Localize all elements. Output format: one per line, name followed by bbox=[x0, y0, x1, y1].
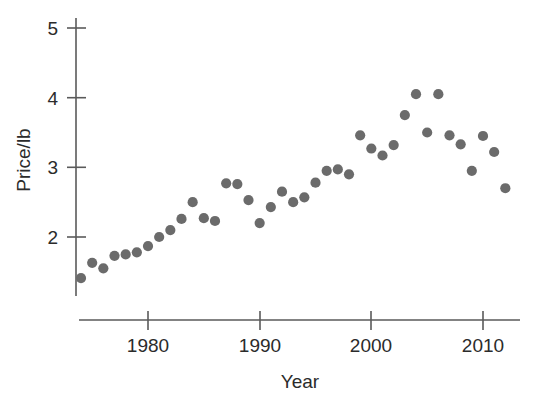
data-point bbox=[467, 166, 477, 176]
data-point bbox=[310, 178, 320, 188]
data-point bbox=[433, 89, 443, 99]
y-tick-labels: 5 4 3 2 bbox=[47, 18, 58, 248]
data-point bbox=[500, 183, 510, 193]
data-point bbox=[255, 218, 265, 228]
data-point bbox=[400, 110, 410, 120]
data-point bbox=[143, 241, 153, 251]
data-point bbox=[389, 140, 399, 150]
data-point bbox=[232, 179, 242, 189]
data-point bbox=[411, 89, 421, 99]
data-point bbox=[199, 213, 209, 223]
x-tick-labels: 1980 1990 2000 2010 bbox=[127, 335, 504, 356]
data-point bbox=[478, 131, 488, 141]
data-point bbox=[210, 216, 220, 226]
data-point bbox=[154, 232, 164, 242]
data-point bbox=[221, 178, 231, 188]
y-tick-label-5: 5 bbox=[47, 18, 58, 39]
x-tick-label-1980: 1980 bbox=[127, 335, 169, 356]
data-point bbox=[121, 249, 131, 259]
data-point bbox=[299, 192, 309, 202]
data-point bbox=[87, 258, 97, 268]
y-tick-label-3: 3 bbox=[47, 157, 58, 178]
data-point bbox=[165, 225, 175, 235]
data-point bbox=[333, 164, 343, 174]
data-point bbox=[109, 251, 119, 261]
data-point bbox=[266, 202, 276, 212]
data-point bbox=[98, 263, 108, 273]
data-point bbox=[288, 197, 298, 207]
data-point bbox=[377, 150, 387, 160]
data-point bbox=[188, 197, 198, 207]
scatter-plot-figure: 5 4 3 2 1980 1990 2000 2010 Price/lb Yea… bbox=[0, 0, 535, 397]
data-point bbox=[366, 143, 376, 153]
y-axis-title: Price/lb bbox=[13, 128, 34, 191]
x-tick-label-2010: 2010 bbox=[462, 335, 504, 356]
data-point bbox=[355, 130, 365, 140]
data-point bbox=[176, 214, 186, 224]
y-tick-label-2: 2 bbox=[47, 227, 58, 248]
data-point bbox=[76, 273, 86, 283]
data-point bbox=[322, 166, 332, 176]
x-tick-label-2000: 2000 bbox=[350, 335, 392, 356]
data-point bbox=[489, 147, 499, 157]
data-point bbox=[422, 127, 432, 137]
y-tick-label-4: 4 bbox=[47, 88, 58, 109]
plot-canvas: 5 4 3 2 1980 1990 2000 2010 Price/lb Yea… bbox=[0, 0, 535, 397]
x-axis-title: Year bbox=[281, 371, 320, 392]
data-point bbox=[243, 195, 253, 205]
x-tick-label-1990: 1990 bbox=[239, 335, 281, 356]
data-point bbox=[277, 187, 287, 197]
data-point bbox=[444, 130, 454, 140]
data-point bbox=[132, 247, 142, 257]
data-point bbox=[344, 169, 354, 179]
data-point bbox=[456, 139, 466, 149]
data-points-layer bbox=[76, 89, 511, 283]
